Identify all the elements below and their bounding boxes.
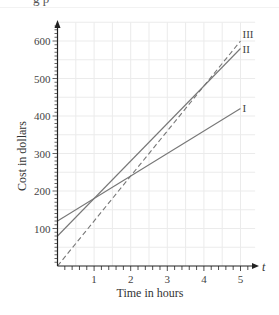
y-tick-label: 500 [34, 73, 51, 85]
series-label-i: I [243, 102, 247, 114]
x-tick-label: 1 [91, 273, 97, 285]
x-axis-title: Time in hours [117, 286, 184, 300]
y-axis-title: Cost in dollars [15, 121, 29, 191]
y-tick-label: 100 [34, 223, 51, 235]
y-tick-label: 600 [34, 35, 51, 47]
x-axis-arrow-icon [252, 263, 259, 269]
y-tick-label: 400 [34, 110, 51, 122]
x-tick-label: 3 [165, 273, 171, 285]
x-tick-label: 5 [238, 273, 244, 285]
x-axis-symbol: t [262, 260, 266, 274]
cost-time-chart: IIIIII12345100200300400500600 Time in ho… [0, 0, 279, 315]
series-label-ii: II [243, 43, 251, 55]
y-tick-label: 300 [34, 148, 51, 160]
x-tick-label: 2 [128, 273, 134, 285]
y-tick-label: 200 [34, 185, 51, 197]
tick-labels: IIIIII12345100200300400500600 [34, 28, 254, 285]
ticks [53, 26, 248, 271]
series-label-iii: III [243, 28, 254, 40]
x-tick-label: 4 [201, 273, 207, 285]
y-axis-arrow-icon [55, 20, 61, 28]
